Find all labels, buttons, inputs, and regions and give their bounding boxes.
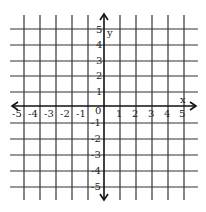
y-tick: 4	[96, 39, 102, 50]
y-tick: -1	[91, 117, 101, 128]
y-tick: 3	[96, 55, 102, 66]
y-tick: 2	[96, 70, 102, 81]
x-tick: -5	[12, 108, 22, 119]
y-axis-label: y	[106, 27, 113, 38]
x-tick: -4	[28, 108, 38, 119]
x-tick: 5	[179, 108, 185, 119]
y-tick: 1	[96, 86, 102, 97]
x-axis-label: x	[180, 94, 186, 105]
x-tick: -3	[44, 108, 54, 119]
x-tick: 2	[132, 108, 138, 119]
x-tick: 1	[116, 108, 122, 119]
y-tick: -2	[91, 133, 101, 144]
y-tick: 5	[96, 24, 102, 35]
y-tick: -4	[91, 165, 101, 176]
y-tick: -5	[91, 181, 101, 192]
origin-label: 0	[95, 105, 101, 116]
coordinate-plane: x y -5 -4 -3 -2 -1 0 1 2 3 4 5 5 4 3 2 1…	[0, 0, 206, 212]
y-tick: -3	[91, 149, 101, 160]
x-tick: -2	[60, 108, 70, 119]
x-tick: 3	[148, 108, 154, 119]
x-tick: -1	[76, 108, 86, 119]
x-tick: 4	[164, 108, 170, 119]
